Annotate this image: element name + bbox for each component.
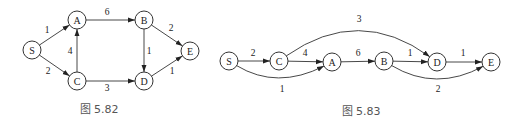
edge-weight-c-d: 3 bbox=[357, 14, 362, 24]
figure-caption: 图 5.83 bbox=[342, 105, 381, 118]
node-label: S bbox=[29, 45, 35, 56]
node-label: A bbox=[328, 57, 336, 68]
node-b: B bbox=[135, 11, 153, 29]
edge-weight-c-d: 3 bbox=[105, 83, 110, 93]
node-label: D bbox=[433, 57, 440, 68]
edge-weight-b-d: 1 bbox=[408, 48, 413, 58]
node-label: C bbox=[276, 56, 283, 67]
node-s: S bbox=[23, 41, 41, 59]
edge-weight-a-b: 6 bbox=[356, 48, 361, 58]
node-c: C bbox=[270, 52, 288, 70]
graph-canvas: 12463121SACBDE图 5.82 24611132SCABDE图 5.8… bbox=[0, 0, 521, 122]
edge-weight-c-a: 4 bbox=[68, 46, 73, 56]
edge-a-b bbox=[341, 61, 375, 62]
node-s: S bbox=[220, 52, 238, 70]
edge-weight-s-c: 2 bbox=[46, 66, 51, 76]
edge-b-e bbox=[151, 25, 182, 46]
node-d: D bbox=[428, 53, 446, 71]
node-d: D bbox=[135, 72, 153, 90]
edge-c-a bbox=[288, 61, 323, 62]
node-b: B bbox=[375, 52, 393, 70]
figure-5-82: 12463121SACBDE图 5.82 bbox=[23, 7, 199, 116]
edge-weight-d-e: 1 bbox=[461, 48, 466, 58]
node-label: E bbox=[488, 57, 494, 68]
node-label: A bbox=[73, 15, 81, 26]
node-label: D bbox=[140, 76, 147, 87]
edge-b-d bbox=[393, 61, 428, 62]
node-e: E bbox=[181, 42, 199, 60]
node-label: B bbox=[381, 56, 388, 67]
edge-weight-b-e: 2 bbox=[436, 84, 441, 94]
edge-d-e bbox=[152, 56, 183, 76]
edge-weight-b-d: 1 bbox=[147, 46, 152, 56]
figure-caption: 图 5.82 bbox=[80, 103, 119, 116]
edge-weight-a-b: 6 bbox=[105, 7, 110, 17]
figure-5-83: 24611132SCABDE图 5.83 bbox=[220, 14, 500, 118]
node-label: S bbox=[226, 56, 232, 67]
edge-weight-b-e: 2 bbox=[169, 23, 174, 33]
edge-weight-s-a: 1 bbox=[280, 84, 285, 94]
edge-weight-s-c: 2 bbox=[251, 48, 256, 58]
edge-weight-c-a: 4 bbox=[303, 48, 308, 58]
node-c: C bbox=[68, 72, 86, 90]
node-label: E bbox=[187, 46, 193, 57]
edge-weight-s-a: 1 bbox=[45, 25, 50, 35]
node-a: A bbox=[68, 11, 86, 29]
edge-weight-d-e: 1 bbox=[170, 66, 175, 76]
node-e: E bbox=[482, 53, 500, 71]
node-label: B bbox=[141, 15, 148, 26]
node-a: A bbox=[323, 53, 341, 71]
edge-s-c bbox=[39, 55, 69, 76]
node-label: C bbox=[74, 76, 81, 87]
